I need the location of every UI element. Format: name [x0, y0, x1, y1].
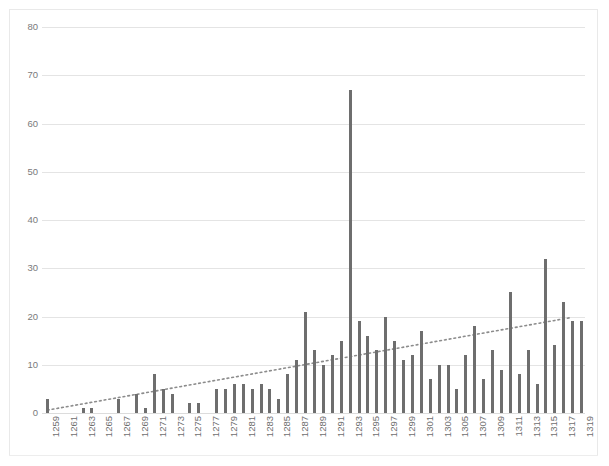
y-axis: 01020304050607080	[0, 27, 38, 413]
x-axis-tick-label: 1311	[514, 416, 524, 436]
chart-container: 01020304050607080 1259126112631265126712…	[0, 0, 609, 466]
x-axis-tick-label: 1297	[389, 416, 399, 437]
x-axis-tick-label: 1305	[460, 416, 470, 437]
bar[interactable]	[429, 379, 432, 413]
x-axis-tick-label: 1303	[443, 416, 453, 437]
bar[interactable]	[286, 374, 289, 413]
bar[interactable]	[375, 350, 378, 413]
bar[interactable]	[447, 365, 450, 413]
x-axis-tick-label: 1315	[549, 416, 559, 437]
bar-series	[42, 27, 585, 413]
bar[interactable]	[322, 365, 325, 413]
x-axis-tick-label: 1281	[247, 416, 257, 437]
bar[interactable]	[491, 350, 494, 413]
bar[interactable]	[242, 384, 245, 413]
bottom-rule	[9, 455, 598, 456]
y-axis-tick-label: 0	[4, 408, 38, 418]
bar[interactable]	[82, 408, 85, 413]
x-axis-tick-label: 1263	[87, 416, 97, 437]
bar[interactable]	[527, 350, 530, 413]
bar[interactable]	[144, 408, 147, 413]
bar[interactable]	[473, 326, 476, 413]
x-axis-tick-label: 1309	[496, 416, 506, 437]
x-axis-tick-label: 1285	[282, 416, 292, 437]
x-axis-tick-label: 1289	[318, 416, 328, 437]
bar[interactable]	[411, 355, 414, 413]
x-axis-tick-label: 1259	[51, 416, 61, 437]
x-axis-tick-label: 1269	[140, 416, 150, 437]
bar[interactable]	[482, 379, 485, 413]
bar[interactable]	[536, 384, 539, 413]
y-axis-tick-label: 50	[4, 167, 38, 177]
bar[interactable]	[384, 317, 387, 414]
x-axis-tick-label: 1261	[69, 416, 79, 437]
x-axis-tick-label: 1279	[229, 416, 239, 437]
bar[interactable]	[553, 345, 556, 413]
bar[interactable]	[46, 399, 49, 413]
bar[interactable]	[251, 389, 254, 413]
bar[interactable]	[340, 341, 343, 413]
x-axis-tick-label: 1307	[478, 416, 488, 437]
axis-baseline	[42, 413, 585, 414]
bar[interactable]	[277, 399, 280, 413]
bar[interactable]	[509, 292, 512, 413]
bar[interactable]	[438, 365, 441, 413]
bar[interactable]	[580, 321, 583, 413]
bar[interactable]	[455, 389, 458, 413]
y-axis-tick-label: 40	[4, 215, 38, 225]
bar[interactable]	[188, 403, 191, 413]
x-axis-tick-label: 1317	[567, 416, 577, 437]
bar[interactable]	[518, 374, 521, 413]
bar[interactable]	[402, 360, 405, 413]
bar[interactable]	[153, 374, 156, 413]
x-axis-tick-label: 1301	[425, 416, 435, 437]
x-axis-tick-label: 1267	[122, 416, 132, 437]
x-axis-tick-label: 1287	[300, 416, 310, 437]
bar[interactable]	[544, 259, 547, 413]
x-axis-tick-label: 1295	[371, 416, 381, 437]
bar[interactable]	[171, 394, 174, 413]
y-axis-tick-label: 80	[4, 22, 38, 32]
bar[interactable]	[135, 394, 138, 413]
bar[interactable]	[304, 312, 307, 413]
x-axis-tick-label: 1271	[158, 416, 168, 437]
bar[interactable]	[500, 370, 503, 413]
x-axis-tick-label: 1277	[211, 416, 221, 437]
y-axis-tick-label: 20	[4, 312, 38, 322]
bar[interactable]	[562, 302, 565, 413]
x-axis-tick-label: 1319	[585, 416, 595, 437]
bar[interactable]	[260, 384, 263, 413]
bar[interactable]	[349, 90, 352, 413]
bar[interactable]	[268, 389, 271, 413]
bar[interactable]	[117, 399, 120, 413]
x-axis-tick-label: 1293	[354, 416, 364, 437]
bar[interactable]	[90, 408, 93, 413]
bar[interactable]	[295, 360, 298, 413]
x-axis-tick-label: 1283	[265, 416, 275, 437]
bar[interactable]	[420, 331, 423, 413]
bar[interactable]	[358, 321, 361, 413]
bar[interactable]	[366, 336, 369, 413]
y-axis-tick-label: 30	[4, 264, 38, 274]
y-axis-tick-label: 10	[4, 360, 38, 370]
bar[interactable]	[162, 389, 165, 413]
x-axis-tick-label: 1299	[407, 416, 417, 437]
x-axis-tick-label: 1291	[336, 416, 346, 437]
y-axis-tick-label: 70	[4, 71, 38, 81]
bar[interactable]	[233, 384, 236, 413]
plot-area	[42, 27, 585, 413]
bar[interactable]	[215, 389, 218, 413]
x-axis-tick-label: 1313	[532, 416, 542, 437]
bar[interactable]	[571, 321, 574, 413]
bar[interactable]	[313, 350, 316, 413]
bar[interactable]	[331, 355, 334, 413]
x-axis-tick-label: 1265	[104, 416, 114, 437]
x-axis-tick-label: 1273	[176, 416, 186, 437]
bar[interactable]	[393, 341, 396, 413]
x-axis-tick-label: 1275	[193, 416, 203, 437]
bar[interactable]	[224, 389, 227, 413]
y-axis-tick-label: 60	[4, 119, 38, 129]
bar[interactable]	[464, 355, 467, 413]
bar[interactable]	[197, 403, 200, 413]
